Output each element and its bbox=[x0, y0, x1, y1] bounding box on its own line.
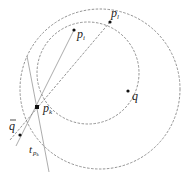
label-tangent-t-pk: tpk bbox=[29, 143, 40, 157]
label-q: q bbox=[132, 89, 138, 103]
line-pi-pk bbox=[16, 30, 74, 146]
label-p-k: pk bbox=[42, 101, 53, 116]
point-q bbox=[126, 89, 129, 92]
label-q-bar: q bbox=[9, 119, 15, 133]
line-pl-qbar bbox=[10, 22, 110, 140]
geometry-diagram: pk pi pl q q tpk bbox=[0, 0, 187, 181]
label-p-l: pl bbox=[110, 6, 119, 21]
label-p-i: pi bbox=[76, 27, 85, 42]
point-q-bar bbox=[18, 133, 21, 136]
point-p-k bbox=[35, 105, 39, 109]
point-p-i bbox=[72, 28, 75, 31]
point-p-l bbox=[108, 20, 111, 23]
